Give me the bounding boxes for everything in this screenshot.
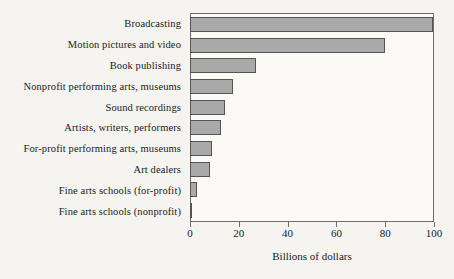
x-axis-tick-labels: 020406080100: [190, 227, 434, 243]
x-axis-tick-label: 60: [331, 227, 342, 239]
bar-row: [191, 55, 433, 76]
bar: [190, 203, 192, 218]
bar: [190, 100, 225, 115]
category-label: Nonprofit performing arts, museums: [0, 76, 186, 97]
bar-row: [191, 97, 433, 118]
x-axis-tick-label: 40: [282, 227, 293, 239]
plot-area: [190, 13, 434, 222]
bar-row: [191, 118, 433, 139]
x-axis-tick-label: 80: [380, 227, 391, 239]
x-axis-tick-label: 100: [426, 227, 443, 239]
bar-row: [191, 138, 433, 159]
bar-row: [191, 200, 433, 221]
bar-row: [191, 35, 433, 56]
category-label: Book publishing: [0, 55, 186, 76]
bar-row: [191, 180, 433, 201]
x-axis-tick-label: 0: [187, 227, 193, 239]
bar: [190, 58, 256, 73]
category-label: Fine arts schools (for-profit): [0, 180, 186, 201]
category-label: Sound recordings: [0, 97, 186, 118]
category-label: For-profit performing arts, museums: [0, 138, 186, 159]
x-axis-title: Billions of dollars: [190, 250, 434, 262]
category-label: Fine arts schools (nonprofit): [0, 201, 186, 222]
bar-row: [191, 76, 433, 97]
category-label: Broadcasting: [0, 13, 186, 34]
bar: [190, 79, 233, 94]
bar-row: [191, 14, 433, 35]
category-label: Artists, writers, performers: [0, 118, 186, 139]
bars-layer: [191, 14, 433, 221]
bar-chart: Broadcasting Motion pictures and video B…: [0, 0, 454, 279]
x-axis-tick-label: 20: [233, 227, 244, 239]
bar: [190, 162, 210, 177]
bar: [190, 38, 385, 53]
category-label: Motion pictures and video: [0, 34, 186, 55]
bar: [190, 17, 433, 32]
bar: [190, 182, 197, 197]
category-label: Art dealers: [0, 159, 186, 180]
category-axis-labels: Broadcasting Motion pictures and video B…: [0, 13, 186, 222]
bar: [190, 141, 212, 156]
bar-row: [191, 159, 433, 180]
bar: [190, 120, 221, 135]
